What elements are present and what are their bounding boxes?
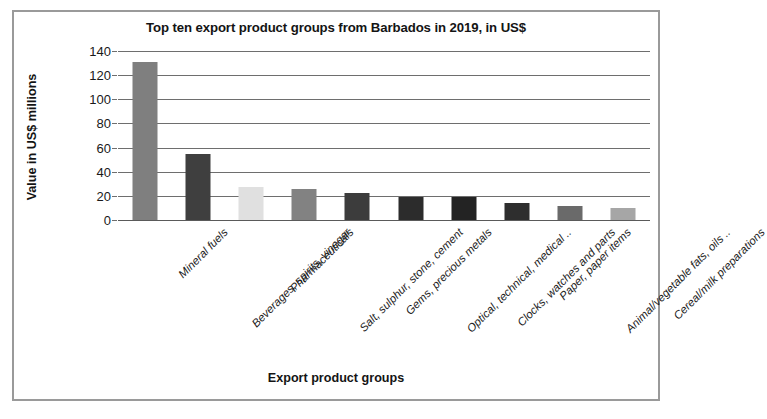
y-tick-mark (112, 196, 117, 197)
bar-slot (437, 51, 490, 220)
x-axis-category-labels: Mineral fuelsBeverages, spirits, vinegar… (118, 222, 650, 372)
y-tick-label: 40 (67, 164, 111, 179)
y-tick-mark (112, 148, 117, 149)
bar (132, 62, 157, 220)
bar-slot (490, 51, 543, 220)
y-tick-label: 140 (67, 44, 111, 59)
bar (451, 197, 476, 220)
bar-slot (118, 51, 171, 220)
bar-slot (278, 51, 331, 220)
bar (504, 203, 529, 220)
bars-layer (118, 51, 650, 220)
x-axis-title: Export product groups (14, 371, 658, 385)
y-tick-label: 20 (67, 188, 111, 203)
y-tick-mark (112, 172, 117, 173)
x-axis-category-label: Mineral fuels (176, 226, 230, 280)
y-tick-label: 0 (67, 213, 111, 228)
bar (398, 197, 423, 220)
bar (558, 206, 583, 220)
y-tick-label: 80 (67, 116, 111, 131)
bar (345, 193, 370, 220)
y-axis-title: Value in US$ millions (25, 57, 39, 217)
bar-slot (171, 51, 224, 220)
chart-figure-frame: Top ten export product groups from Barba… (12, 10, 660, 401)
bar (185, 154, 210, 220)
bar (238, 187, 263, 220)
bar (611, 208, 636, 220)
x-axis-category-label: Pharmaceuticals (288, 226, 356, 294)
y-tick-label: 120 (67, 68, 111, 83)
bar-slot (544, 51, 597, 220)
y-tick-label: 100 (67, 92, 111, 107)
bar-slot (331, 51, 384, 220)
chart-title: Top ten export product groups from Barba… (14, 20, 658, 35)
bar-slot (597, 51, 650, 220)
bar (292, 189, 317, 220)
bar-slot (224, 51, 277, 220)
gridline (118, 220, 650, 221)
y-tick-mark (112, 220, 117, 221)
y-tick-mark (112, 75, 117, 76)
y-tick-label: 60 (67, 140, 111, 155)
x-axis-category-label: Salt, sulphur, stone, cement (357, 226, 465, 334)
plot-area: 020406080100120140 (118, 51, 650, 220)
y-tick-mark (112, 51, 117, 52)
bar-slot (384, 51, 437, 220)
y-tick-mark (112, 123, 117, 124)
y-tick-mark (112, 99, 117, 100)
